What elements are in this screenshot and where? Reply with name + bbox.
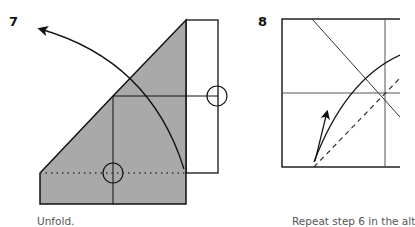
step-8-caption: Repeat step 6 in the alt (292, 215, 415, 227)
step-7-caption: Unfold. (37, 215, 74, 227)
step-8-diagram (0, 0, 400, 215)
